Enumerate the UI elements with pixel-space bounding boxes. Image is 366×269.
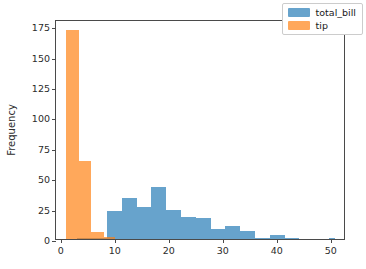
x-tick-label: 0: [58, 246, 64, 256]
y-axis-label: Frequency: [6, 104, 17, 156]
x-tick-label: 20: [163, 246, 175, 256]
histogram-bar: [166, 210, 181, 239]
histogram-bar: [285, 238, 300, 239]
y-tick-label: 125: [32, 84, 50, 94]
plot-area: [56, 21, 344, 239]
histogram-bar: [181, 217, 196, 239]
y-tick-mark: [52, 59, 56, 60]
y-tick-label: 150: [32, 54, 50, 64]
y-tick-mark: [52, 28, 56, 29]
histogram-bar: [122, 198, 137, 239]
legend-swatch-icon: [288, 21, 310, 30]
histogram-bar: [196, 218, 211, 239]
histogram-bar: [151, 187, 166, 239]
histogram-bar: [240, 231, 255, 240]
y-tick-mark: [52, 211, 56, 212]
x-tick-mark: [169, 239, 170, 243]
legend-label: tip: [316, 21, 328, 31]
y-tick-label: 0: [44, 236, 50, 246]
y-tick-mark: [52, 180, 56, 181]
histogram-figure: Frequency 0255075100125150175 0102030405…: [0, 0, 366, 269]
x-tick-label: 50: [325, 246, 337, 256]
y-tick-label: 75: [38, 145, 50, 155]
legend-swatch-icon: [288, 8, 310, 17]
x-tick-mark: [277, 239, 278, 243]
histogram-bar: [79, 161, 91, 239]
y-tick-mark: [52, 119, 56, 120]
y-tick-mark: [52, 89, 56, 90]
x-tick-mark: [115, 239, 116, 243]
x-tick-label: 40: [271, 246, 283, 256]
y-tick-label: 50: [38, 175, 50, 185]
histogram-bar: [255, 238, 270, 239]
legend-label: total_bill: [316, 8, 356, 18]
y-tick-mark: [52, 241, 56, 242]
chart-legend: total_billtip: [282, 3, 363, 35]
histogram-bar: [137, 207, 152, 239]
x-tick-mark: [223, 239, 224, 243]
x-tick-mark: [61, 239, 62, 243]
histogram-bar: [66, 30, 78, 239]
x-tick-label: 10: [109, 246, 121, 256]
histogram-bar: [211, 229, 226, 239]
legend-entry: tip: [288, 21, 356, 31]
histogram-bar: [225, 226, 240, 239]
x-tick-mark: [331, 239, 332, 243]
histogram-bar: [104, 237, 115, 239]
plot-axes: 0255075100125150175 01020304050: [55, 20, 345, 240]
y-tick-label: 100: [32, 115, 50, 125]
y-tick-label: 25: [38, 206, 50, 216]
y-tick-label: 175: [32, 24, 50, 34]
legend-entry: total_bill: [288, 8, 356, 18]
histogram-bar: [107, 211, 122, 239]
x-tick-label: 30: [217, 246, 229, 256]
histogram-bar: [91, 232, 103, 239]
y-tick-mark: [52, 150, 56, 151]
